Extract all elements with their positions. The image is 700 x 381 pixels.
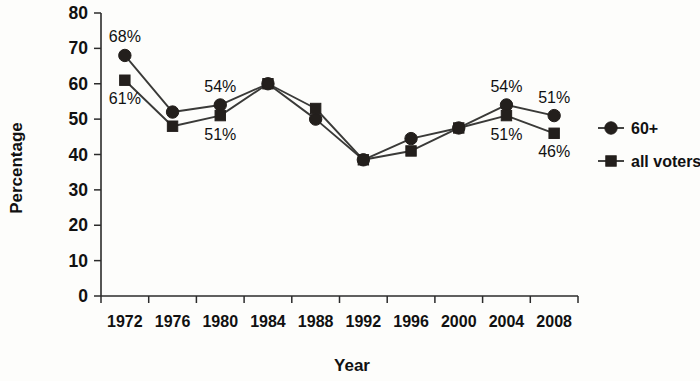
data-point-marker	[500, 99, 512, 111]
y-axis-tick-label: 10	[69, 251, 89, 271]
data-point-marker	[309, 113, 321, 125]
x-axis-tick-label: 2000	[441, 313, 477, 330]
data-point-label: 54%	[204, 78, 236, 95]
data-point-marker	[215, 110, 225, 120]
x-axis-tick-labels: 1972197619801984198819921996200020042008	[107, 313, 572, 330]
y-axis-ticks	[94, 13, 101, 296]
data-point-marker	[310, 103, 320, 113]
y-axis-tick-label: 50	[69, 109, 89, 129]
y-axis-tick-label: 80	[69, 3, 89, 23]
series-markers-group	[119, 49, 561, 166]
x-axis-tick-label: 2004	[489, 313, 525, 330]
y-axis-title: Percentage	[7, 122, 26, 214]
y-axis-tick-label: 60	[69, 74, 89, 94]
legend-marker-circle	[605, 122, 617, 134]
y-axis-tick-label: 20	[69, 215, 89, 235]
data-point-marker	[454, 123, 464, 133]
y-axis-tick-labels: 01020304050607080	[69, 3, 89, 306]
x-axis-tick-label: 1972	[107, 313, 143, 330]
data-point-label: 51%	[204, 126, 236, 143]
data-point-label: 51%	[490, 126, 522, 143]
voter-turnout-line-chart: Percentage 01020304050607080 19721976198…	[0, 0, 700, 381]
y-axis-title-group: Percentage	[7, 122, 26, 214]
data-point-marker	[167, 121, 177, 131]
chart-container: Percentage 01020304050607080 19721976198…	[0, 0, 700, 381]
legend-label-60-: 60+	[631, 120, 658, 137]
x-axis-tick-label: 1992	[346, 313, 382, 330]
data-point-marker	[358, 155, 368, 165]
data-point-marker	[406, 146, 416, 156]
x-axis-tick-label: 1976	[155, 313, 191, 330]
data-point-marker	[120, 75, 130, 85]
y-axis-tick-label: 0	[78, 286, 88, 306]
x-axis-ticks	[101, 296, 578, 303]
series-line-60-	[125, 55, 554, 159]
chart-legend: 60+all voters	[598, 120, 700, 170]
data-point-marker	[166, 106, 178, 118]
x-axis-title: Year	[334, 356, 370, 375]
data-point-label: 46%	[538, 143, 570, 160]
data-point-label: 51%	[538, 89, 570, 106]
x-axis-tick-label: 1996	[393, 313, 429, 330]
y-axis-tick-label: 70	[69, 38, 89, 58]
data-point-label: 61%	[109, 90, 141, 107]
data-point-marker	[263, 79, 273, 89]
data-point-marker	[119, 49, 131, 61]
x-axis-tick-label: 1980	[202, 313, 238, 330]
data-point-label: 54%	[490, 78, 522, 95]
legend-label-all-voters: all voters	[631, 153, 700, 170]
y-axis-tick-label: 40	[69, 145, 89, 165]
legend-marker-square	[606, 156, 616, 166]
data-point-marker	[214, 99, 226, 111]
data-point-marker	[405, 132, 417, 144]
data-point-marker	[501, 110, 511, 120]
data-point-marker	[548, 109, 560, 121]
x-axis-tick-label: 1988	[298, 313, 334, 330]
y-axis-tick-label: 30	[69, 180, 89, 200]
data-point-marker	[549, 128, 559, 138]
data-point-label: 68%	[109, 28, 141, 45]
x-axis-tick-label: 2008	[536, 313, 572, 330]
series-lines-group	[125, 55, 554, 159]
x-axis-tick-label: 1984	[250, 313, 286, 330]
